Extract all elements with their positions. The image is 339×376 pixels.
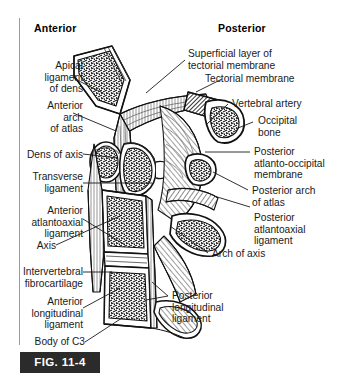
label-posterior-atlantoaxial-ligament: Posterior atlantoaxial ligament — [254, 212, 336, 247]
label-anterior-longitudinal-ligament: Anterior longitudinal ligament — [8, 296, 83, 331]
label-superficial-layer-of-tectorial-membrane: Superficial layer of tectorial membrane — [188, 48, 333, 71]
label-intervertebral-fibrocartilage: Intervertebral fibrocartilage — [4, 266, 83, 289]
label-anterior-arch-of-atlas: Anterior arch of atlas — [10, 100, 83, 135]
orientation-label-anterior: Anterior — [34, 22, 76, 34]
orientation-label-posterior: Posterior — [218, 22, 266, 34]
label-posterior-atlanto-occipital-membrane: Posterior atlanto-occipital membrane — [254, 146, 339, 181]
label-posterior-arch-of-atlas: Posterior arch of atlas — [252, 185, 337, 208]
label-axis: Axis — [10, 240, 56, 252]
label-apical-ligament-of-dens: Apical ligament of dens — [10, 60, 83, 95]
figure-caption-box: FIG. 11-4 — [20, 352, 100, 373]
label-vertebral-artery: Vertebral artery — [232, 98, 339, 110]
label-transverse-ligament: Transverse ligament — [10, 171, 83, 194]
label-arch-of-axis: Arch of axis — [212, 248, 312, 260]
label-anterior-atlantoaxial-ligament: Anterior atlantoaxial ligament — [8, 205, 83, 240]
label-occipital-bone: Occipital bone — [258, 115, 334, 138]
label-posterior-longitudinal-ligament: Posterior longitudinal ligament — [172, 290, 254, 325]
label-body-of-c3: Body of C3 — [10, 336, 85, 348]
label-tectorial-membrane: Tectorial membrane — [205, 73, 335, 85]
figure-caption-text: FIG. 11-4 — [20, 352, 100, 373]
label-dens-of-axis: Dens of axis — [6, 149, 83, 161]
figure-root: Anterior Posterior — [0, 0, 339, 376]
